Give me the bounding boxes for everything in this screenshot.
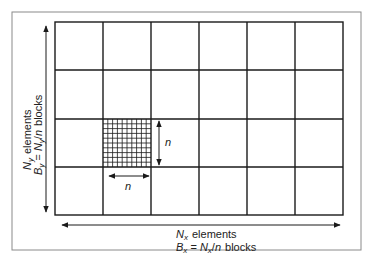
- coarse-grid: [55, 22, 343, 215]
- block-height-label: n: [165, 136, 171, 148]
- x-elements-label: Nxelements: [176, 228, 237, 242]
- y-blocks-label: By = Ny/nblocks: [32, 94, 46, 175]
- block-width-label: n: [125, 180, 131, 192]
- domain-decomposition-diagram: n n Nxelements Bx = Nx/nblocks Nyelement…: [0, 0, 372, 262]
- x-blocks-label: Bx = Nx/nblocks: [176, 241, 257, 255]
- fine-mesh-block: [103, 119, 151, 167]
